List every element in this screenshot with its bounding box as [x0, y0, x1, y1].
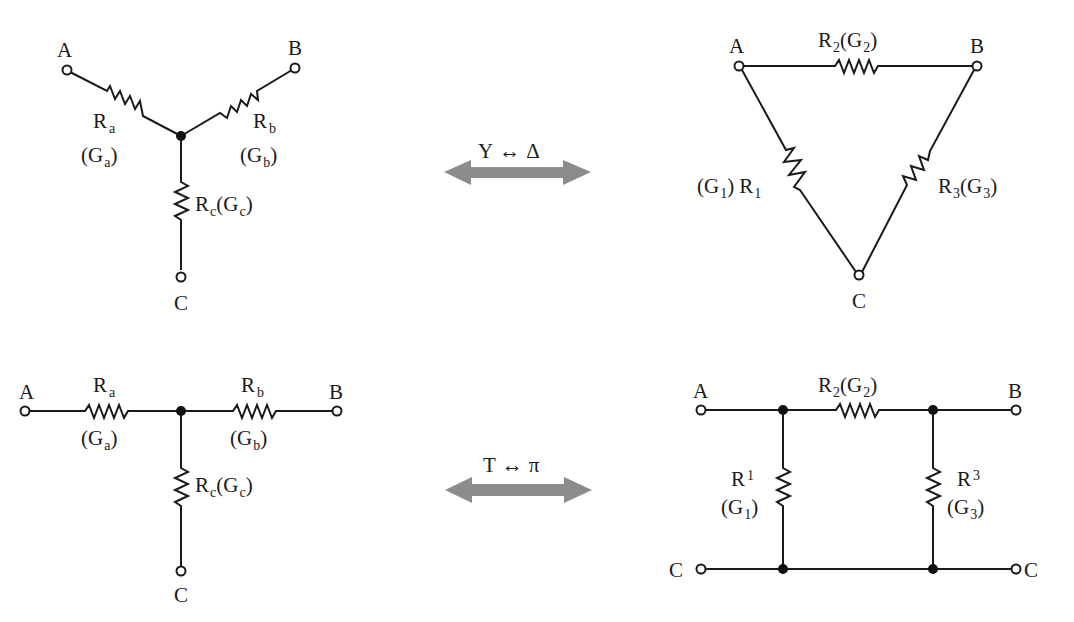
transform-label-t-pi: T↔π: [483, 453, 540, 477]
junction-node: [176, 131, 186, 141]
terminal-c: [177, 273, 186, 282]
double-arrow-icon: [444, 160, 591, 185]
terminal-label-a: A: [693, 379, 709, 403]
terminal-label-b: B: [1008, 379, 1022, 403]
resistor-label-r2: R2(G2): [818, 28, 877, 55]
terminal-b: [291, 64, 300, 73]
terminal-a: [63, 66, 72, 75]
transform-label-y-delta: Y↔Δ: [478, 139, 540, 163]
terminal-c: [855, 271, 864, 280]
terminal-c: [177, 567, 186, 576]
resistor-label-rc: Rc(Gc): [195, 473, 253, 500]
y-delta-transform: Y↔Δ: [444, 139, 591, 185]
terminal-label-c-right: C: [1024, 558, 1038, 582]
terminal-a: [735, 62, 744, 71]
terminal-label-a: A: [57, 38, 73, 62]
conductance-label-g3: (G3): [947, 495, 984, 522]
terminal-label-c: C: [174, 291, 188, 315]
terminal-label-b: B: [970, 34, 984, 58]
resistor-label-r1: R1: [731, 467, 754, 491]
terminal-label-b: B: [288, 36, 302, 60]
junction-node: [778, 405, 788, 415]
double-arrow-icon: [445, 477, 592, 503]
resistor-label-r3: R3(G3): [938, 174, 997, 201]
terminal-b: [333, 407, 342, 416]
terminal-c-left: [697, 565, 706, 574]
terminal-label-c: C: [852, 289, 866, 313]
resistor-label-rc: Rc(Gc): [195, 192, 253, 219]
conductance-label-gb: (Gb): [240, 143, 277, 170]
terminal-b: [1012, 406, 1021, 415]
resistor-label-r3: R3: [957, 467, 980, 491]
conductance-label-g1: (G1): [721, 495, 758, 522]
y-network: A B C Ra (Ga) Rb (Gb) Rc(Gc): [57, 36, 302, 315]
junction-node: [176, 406, 186, 416]
conductance-label-ga: (Ga): [81, 426, 117, 453]
resistor-label-ra: Ra: [93, 109, 116, 136]
terminal-label-c-left: C: [669, 558, 683, 582]
delta-network: A B C R2(G2) (G1)R1 R3(G3): [697, 28, 997, 313]
junction-node: [928, 405, 938, 415]
junction-node: [778, 564, 788, 574]
resistor-label-ra: Ra: [93, 373, 116, 400]
pi-network: A B C C R2(G2) R1 (G1) R3 (G3): [669, 373, 1038, 582]
resistor-label-rb: Rb: [253, 109, 276, 136]
terminal-label-b: B: [329, 380, 343, 404]
t-pi-transform: T↔π: [445, 453, 592, 503]
terminal-label-a: A: [729, 34, 745, 58]
terminal-label-a: A: [19, 380, 35, 404]
resistor-label-r1: (G1)R1: [697, 174, 761, 201]
conductance-label-gb: (Gb): [230, 426, 267, 453]
terminal-label-c: C: [174, 583, 188, 607]
circuit-diagram: A B C Ra (Ga) Rb (Gb) Rc(Gc) Y↔Δ A B C R…: [0, 0, 1074, 622]
t-network: A B C Ra (Ga) Rb (Gb) Rc(Gc): [19, 373, 343, 607]
terminal-a: [21, 407, 30, 416]
terminal-b: [973, 62, 982, 71]
terminal-a: [697, 406, 706, 415]
resistor-label-rb: Rb: [241, 373, 264, 400]
terminal-c-right: [1012, 565, 1021, 574]
conductance-label-ga: (Ga): [81, 143, 117, 170]
resistor-label-r2: R2(G2): [818, 373, 877, 400]
junction-node: [928, 564, 938, 574]
